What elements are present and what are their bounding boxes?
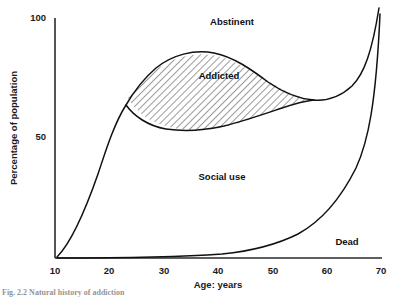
y-tick-50: 50 bbox=[35, 131, 46, 142]
curve-dead bbox=[57, 14, 380, 258]
x-tick-40: 40 bbox=[213, 265, 224, 276]
label-abstinent: Abstinent bbox=[210, 16, 255, 27]
figure-container: 100 50 Percentage of population 10 20 30… bbox=[0, 0, 406, 298]
x-tick-10: 10 bbox=[50, 265, 61, 276]
label-dead: Dead bbox=[335, 236, 358, 247]
x-tick-30: 30 bbox=[159, 265, 170, 276]
y-tick-labels: 100 50 bbox=[30, 12, 46, 142]
y-axis-title: Percentage of population bbox=[8, 71, 19, 185]
curve-abstinent-boundary bbox=[57, 8, 379, 257]
chart-canvas: 100 50 Percentage of population 10 20 30… bbox=[0, 0, 406, 298]
region-labels: Abstinent Addicted Social use Dead bbox=[199, 16, 359, 247]
x-tick-labels: 10 20 30 40 50 60 70 bbox=[50, 265, 387, 276]
x-tick-60: 60 bbox=[322, 265, 333, 276]
figure-caption: Fig. 2.2 Natural history of addiction bbox=[0, 288, 406, 298]
label-addicted: Addicted bbox=[199, 70, 240, 81]
x-tick-50: 50 bbox=[268, 265, 279, 276]
x-tick-70: 70 bbox=[376, 265, 387, 276]
label-social-use: Social use bbox=[199, 171, 246, 182]
x-tick-20: 20 bbox=[104, 265, 115, 276]
y-tick-100: 100 bbox=[30, 12, 46, 23]
figure-caption-text: Fig. 2.2 Natural history of addiction bbox=[0, 288, 406, 298]
